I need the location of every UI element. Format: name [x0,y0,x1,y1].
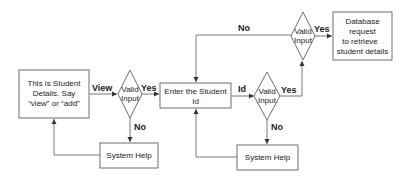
enter-line-1: Enter the Student [164,87,227,96]
edge-label-view: View [92,83,113,93]
edge-label-no-2: No [271,122,283,132]
edge-label-yes-3: Yes [314,24,330,34]
valid1-line-1: Valid [121,85,138,94]
db-line-2: request [349,27,376,36]
intro-line-2: Details. Say [33,89,76,98]
edge-label-no-1: No [134,122,146,132]
valid-input-diamond-2: Valid Input [254,72,280,120]
valid3-line-2: Input [294,36,313,45]
intro-line-1: This is Student [28,79,82,88]
system-help-box-2: System Help [237,145,298,170]
edge-no-3 [196,35,291,82]
system-help-box-1: System Help [100,143,158,168]
valid2-line-1: Valid [258,87,275,96]
intro-box: This is Student Details. Say “view” or “… [19,70,89,118]
valid3-line-1: Valid [294,27,311,36]
edge-label-no-3: No [238,23,250,33]
edge-help2-return [196,109,237,157]
valid-input-diamond-1: Valid Input [118,70,142,118]
help2-label: System Help [245,153,291,162]
valid1-line-2: Input [121,94,140,103]
enter-student-id-box: Enter the Student Id [160,83,231,108]
flowchart: This is Student Details. Say “view” or “… [0,0,409,177]
enter-line-2: Id [192,97,199,106]
edge-label-yes-1: Yes [141,83,157,93]
edge-label-yes-2: Yes [281,85,297,95]
intro-line-3: “view” or “add” [28,99,80,108]
edge-label-id: Id [238,84,246,94]
valid-input-diamond-3: Valid Input [291,12,315,60]
db-line-1: Database [345,17,380,26]
db-line-3: to retrieve [342,37,378,46]
edge-help1-return [54,119,100,155]
help1-label: System Help [106,151,152,160]
valid2-line-2: Input [258,96,277,105]
database-request-box: Database request to retrieve student det… [333,12,392,60]
db-line-4: student details [337,47,389,56]
